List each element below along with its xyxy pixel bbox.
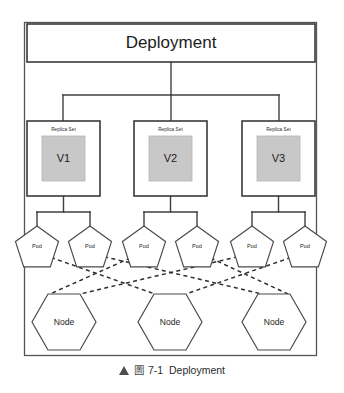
- node-shape-2: Node: [138, 294, 202, 350]
- figure-container: Deployment Replica Set V1 Replica Set V2: [0, 0, 344, 393]
- replicaset-3-version-label: V3: [272, 152, 285, 164]
- replicaset-to-pod-connectors: [37, 196, 305, 226]
- pod-shape-1: Pod: [16, 226, 59, 267]
- pod-6-label: Pod: [300, 243, 310, 249]
- pod-shape-2: Pod: [69, 226, 112, 267]
- triangle-marker-icon: [119, 366, 129, 375]
- replicaset-1-title: Replica Set: [51, 127, 76, 132]
- deployment-box: Deployment: [27, 24, 315, 62]
- replicaset-box-2: Replica Set V2: [134, 121, 207, 196]
- pod-shape-6: Pod: [284, 226, 327, 267]
- deployment-label: Deployment: [126, 33, 217, 52]
- pod-3-label: Pod: [139, 243, 149, 249]
- pod-2-label: Pod: [85, 243, 95, 249]
- replicaset-box-3: Replica Set V3: [242, 121, 315, 196]
- node-2-label: Node: [160, 317, 181, 327]
- deployment-architecture-diagram: Deployment Replica Set V1 Replica Set V2: [0, 0, 344, 393]
- node-1-label: Node: [54, 317, 75, 327]
- pod-shape-4: Pod: [176, 226, 219, 267]
- figure-caption-text: 7-1 Deployment: [148, 365, 225, 376]
- replicaset-box-1: Replica Set V1: [27, 121, 100, 196]
- node-shape-1: Node: [32, 294, 96, 350]
- deployment-to-replicaset-connectors: [63, 62, 279, 121]
- pod-4-label: Pod: [192, 243, 202, 249]
- pod-5-label: Pod: [247, 243, 257, 249]
- figure-glyph-icon: 圖: [134, 365, 144, 376]
- pod-shape-3: Pod: [123, 226, 166, 267]
- pod-1-label: Pod: [32, 243, 42, 249]
- replicaset-2-title: Replica Set: [158, 127, 183, 132]
- node-shape-3: Node: [242, 294, 306, 350]
- node-3-label: Node: [264, 317, 285, 327]
- replicaset-1-version-label: V1: [57, 152, 70, 164]
- replicaset-2-version-label: V2: [164, 152, 177, 164]
- pod-shape-5: Pod: [231, 226, 274, 267]
- replicaset-3-title: Replica Set: [266, 127, 291, 132]
- figure-caption: 圖 7-1 Deployment: [0, 358, 344, 382]
